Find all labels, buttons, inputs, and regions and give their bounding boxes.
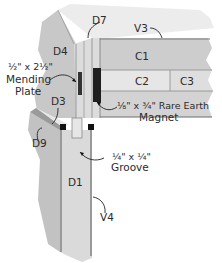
mending-plate bbox=[78, 72, 82, 95]
label-v4: V4 bbox=[100, 211, 114, 223]
label-mending-plate-word2: Plate bbox=[15, 85, 41, 97]
label-v3: V3 bbox=[134, 22, 148, 34]
panel-lower-left bbox=[28, 112, 60, 252]
label-d4: D4 bbox=[53, 45, 68, 57]
label-d7: D7 bbox=[92, 14, 107, 26]
label-c1: C1 bbox=[135, 50, 149, 62]
label-groove-word: Groove bbox=[111, 161, 149, 173]
label-c3: C3 bbox=[180, 75, 194, 87]
panel-c1 bbox=[100, 38, 212, 70]
label-magnet-word: Magnet bbox=[139, 111, 178, 123]
door-d1 bbox=[60, 130, 92, 262]
label-d1: D1 bbox=[68, 176, 83, 188]
label-d3: D3 bbox=[51, 95, 66, 107]
rare-earth-magnet bbox=[93, 68, 101, 102]
joint-diagram: D7 V3 D4 C1 C2 C3 D3 D9 D1 V4 ½" x 2½" M… bbox=[0, 0, 222, 263]
label-magnet-size: ⅛" x ¾" Rare Earth bbox=[117, 100, 209, 111]
label-c2: C2 bbox=[135, 75, 149, 87]
label-mending-plate-word1: Mending bbox=[6, 73, 51, 85]
corner-block-right bbox=[88, 124, 94, 130]
groove bbox=[72, 118, 82, 138]
label-mending-plate-size: ½" x 2½" bbox=[8, 61, 53, 72]
label-d9: D9 bbox=[32, 137, 47, 149]
corner-block-left bbox=[60, 124, 66, 130]
